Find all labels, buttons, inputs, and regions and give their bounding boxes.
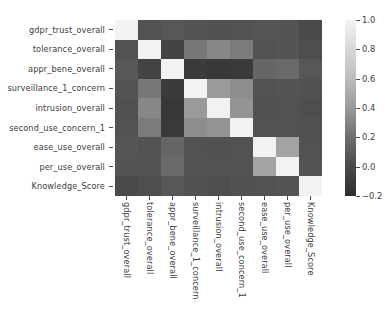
- x-axis-label-slot: gdpr_trust_overall: [115, 202, 138, 304]
- x-axis-tick: [138, 196, 161, 201]
- heatmap-cell: [230, 40, 253, 60]
- heatmap-cell: [184, 40, 207, 60]
- heatmap-cell: [138, 137, 161, 157]
- x-axis-tick: [276, 196, 299, 201]
- heatmap-cell: [253, 157, 276, 177]
- heatmap-cell: [253, 20, 276, 40]
- heatmap-cell: [207, 137, 230, 157]
- heatmap-cell: [276, 59, 299, 79]
- heatmap-cell: [161, 79, 184, 99]
- heatmap-cell: [207, 20, 230, 40]
- colorbar-tick-label: 0.4: [362, 103, 375, 113]
- heatmap-cell: [115, 118, 138, 138]
- x-axis-label: intrusion_overall: [214, 202, 224, 272]
- heatmap-cell: [230, 20, 253, 40]
- x-axis-tick: [207, 196, 230, 201]
- heatmap-cell: [207, 40, 230, 60]
- heatmap-cell: [161, 98, 184, 118]
- heatmap-cell: [115, 79, 138, 99]
- x-axis-tick: [299, 196, 322, 201]
- x-axis-label-slot: second_use_concern_1: [230, 202, 253, 304]
- heatmap-cell: [276, 79, 299, 99]
- heatmap-cell: [207, 59, 230, 79]
- colorbar-tick-label: 0.6: [362, 74, 375, 84]
- x-axis-label: appr_bene_overall: [168, 202, 178, 279]
- colorbar-tick: [356, 79, 360, 80]
- heatmap-cell: [115, 59, 138, 79]
- heatmap-cell: [138, 157, 161, 177]
- heatmap-cell: [276, 118, 299, 138]
- x-axis-tick: [115, 196, 138, 201]
- heatmap-cell: [184, 157, 207, 177]
- x-axis-tick: [230, 196, 253, 201]
- colorbar-tick-label: 0.0: [362, 162, 375, 172]
- heatmap-cell: [230, 98, 253, 118]
- y-axis-label: Knowledge_Score: [0, 177, 107, 197]
- heatmap-cell: [253, 98, 276, 118]
- x-axis-label: second_use_concern_1: [237, 202, 247, 298]
- heatmap-cell: [184, 98, 207, 118]
- heatmap-cell: [299, 118, 322, 138]
- heatmap-cell: [138, 98, 161, 118]
- heatmap-cell: [230, 176, 253, 196]
- colorbar: 1.00.80.60.40.20.0−0.2: [345, 20, 356, 196]
- heatmap-cell: [115, 40, 138, 60]
- heatmap-cell: [207, 98, 230, 118]
- x-axis-label: per_use_overall: [283, 202, 293, 268]
- heatmap-cell: [184, 20, 207, 40]
- heatmap-cell: [161, 59, 184, 79]
- y-axis-label: gdpr_trust_overall: [0, 20, 107, 40]
- heatmap-cell: [161, 118, 184, 138]
- heatmap-cell: [138, 40, 161, 60]
- x-axis-label-slot: tolerance_overall: [138, 202, 161, 304]
- heatmap-cell: [161, 176, 184, 196]
- y-axis-label: ease_use_overall: [0, 137, 107, 157]
- x-axis-label-slot: per_use_overall: [276, 202, 299, 304]
- heatmap-cell: [115, 176, 138, 196]
- heatmap-cell: [207, 118, 230, 138]
- heatmap-cell: [115, 98, 138, 118]
- heatmap-cell: [230, 137, 253, 157]
- heatmap-cell: [276, 157, 299, 177]
- colorbar-tick: [356, 108, 360, 109]
- heatmap-cell: [184, 79, 207, 99]
- heatmap-cell: [276, 176, 299, 196]
- x-axis-tick: [253, 196, 276, 201]
- heatmap-cell: [253, 79, 276, 99]
- heatmap-cell: [276, 137, 299, 157]
- y-axis-label: second_use_concern_1: [0, 118, 107, 138]
- y-axis-label: tolerance_overall: [0, 40, 107, 60]
- heatmap-cell: [299, 79, 322, 99]
- heatmap-cell: [115, 157, 138, 177]
- heatmap-cell: [276, 20, 299, 40]
- x-axis-label-slot: surveillance_1_concern: [184, 202, 207, 304]
- heatmap-cell: [230, 118, 253, 138]
- correlation-heatmap-figure: gdpr_trust_overalltolerance_overallappr_…: [0, 0, 390, 314]
- heatmap-cell-grid: [115, 20, 322, 196]
- colorbar-tick: [356, 49, 360, 50]
- heatmap-cell: [115, 20, 138, 40]
- heatmap-cell: [230, 157, 253, 177]
- x-axis-label: gdpr_trust_overall: [122, 202, 132, 278]
- heatmap-cell: [161, 137, 184, 157]
- heatmap-cell: [253, 118, 276, 138]
- heatmap-cell: [184, 176, 207, 196]
- colorbar-tick-label: −0.2: [362, 191, 382, 201]
- colorbar-tick: [356, 167, 360, 168]
- colorbar-tick: [356, 137, 360, 138]
- x-axis-label: ease_use_overall: [260, 202, 270, 273]
- heatmap-cell: [138, 59, 161, 79]
- heatmap-cell: [299, 176, 322, 196]
- colorbar-tick: [356, 196, 360, 197]
- y-axis-label: per_use_overall: [0, 157, 107, 177]
- heatmap-cell: [299, 137, 322, 157]
- colorbar-tick-label: 0.2: [362, 132, 375, 142]
- x-axis-tick: [184, 196, 207, 201]
- heatmap-cell: [230, 59, 253, 79]
- heatmap-cell: [299, 20, 322, 40]
- x-axis-tick-labels: gdpr_trust_overalltolerance_overallappr_…: [115, 202, 322, 304]
- heatmap-cell: [184, 59, 207, 79]
- heatmap-cell: [207, 176, 230, 196]
- heatmap-cell: [253, 59, 276, 79]
- heatmap-cell: [253, 137, 276, 157]
